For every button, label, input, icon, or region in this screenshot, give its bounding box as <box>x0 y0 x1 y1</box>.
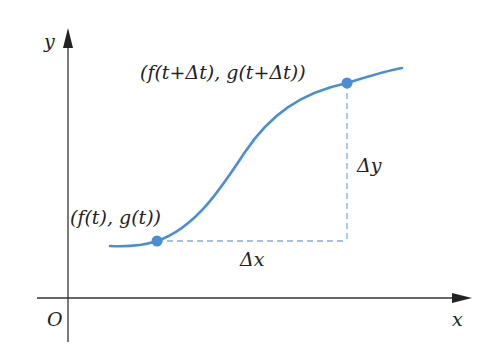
x-axis-arrow-icon <box>452 293 472 303</box>
delta-x-label: Δx <box>239 248 265 270</box>
x-axis-label: x <box>452 308 463 330</box>
point-t-plus-dt <box>342 78 353 89</box>
parametric-curve-diagram: y x O (f(t+Δt), g(t+Δt)) (f(t), g(t)) Δx… <box>0 0 498 358</box>
point-t-plus-dt-label: (f(t+Δt), g(t+Δt)) <box>140 61 306 83</box>
y-axis-label: y <box>43 30 55 52</box>
delta-y-label: Δy <box>356 154 382 176</box>
point-t-label: (f(t), g(t)) <box>70 206 161 228</box>
origin-label: O <box>47 308 63 330</box>
point-t <box>152 236 163 247</box>
y-axis-arrow-icon <box>63 28 73 48</box>
